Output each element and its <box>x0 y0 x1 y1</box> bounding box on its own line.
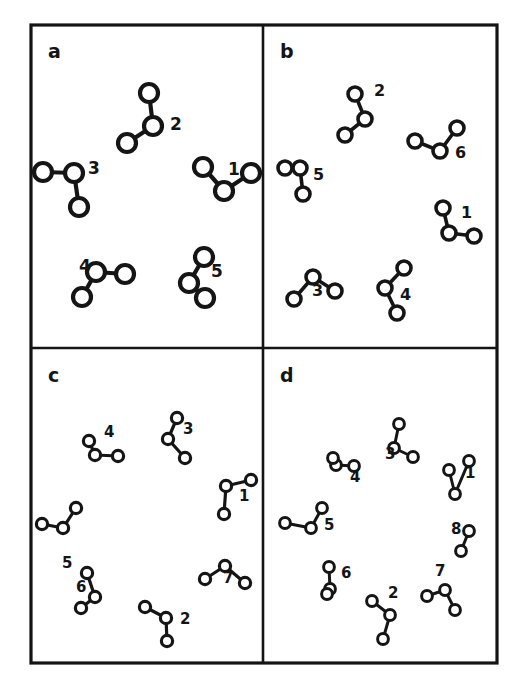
cluster-hub-node <box>180 274 198 292</box>
cluster-label: 3 <box>312 281 323 300</box>
cluster-hub-node <box>440 585 451 596</box>
cluster-leaf-node <box>296 187 310 201</box>
cluster-hub-node <box>215 182 233 200</box>
cluster-leaf-node <box>317 503 328 514</box>
cluster-hub-node <box>433 144 447 158</box>
cluster-leaf-node <box>70 502 81 513</box>
cluster-leaf-node <box>378 634 389 645</box>
cluster-label: 7 <box>223 569 233 587</box>
cluster-hub-node <box>378 281 392 295</box>
cluster: 1 <box>218 474 256 519</box>
cluster: 4 <box>378 261 411 320</box>
cluster: 3 <box>287 270 342 306</box>
cluster: 6 <box>75 567 100 613</box>
cluster-leaf-node <box>161 635 172 646</box>
cluster-hub-node <box>293 161 307 175</box>
cluster-leaf-node <box>450 121 464 135</box>
cluster-leaf-node <box>239 577 250 588</box>
panel-letter-a: a <box>48 40 61 62</box>
cluster-label: 2 <box>388 584 398 602</box>
cluster-leaf-node <box>171 412 182 423</box>
cluster-leaf-node <box>322 589 333 600</box>
cluster-leaf-node <box>280 518 291 529</box>
cluster-leaf-node <box>73 288 91 306</box>
cluster-hub-node <box>89 449 100 460</box>
cluster: 5 <box>36 502 81 572</box>
cluster-label: 1 <box>228 159 240 179</box>
cluster-leaf-node <box>36 518 47 529</box>
cluster: 3 <box>34 158 100 216</box>
cluster-label: 4 <box>400 285 411 304</box>
cluster-label: 2 <box>374 81 385 100</box>
cluster-label: 4 <box>350 468 360 486</box>
cluster-leaf-node <box>328 284 342 298</box>
cluster-leaf-node <box>287 292 301 306</box>
cluster: 2 <box>118 84 182 152</box>
cluster-hub-node <box>385 610 396 621</box>
cluster-leaf-node <box>179 452 190 463</box>
cluster: 2 <box>139 601 190 646</box>
cluster-leaf-node <box>328 453 339 464</box>
cluster: 5 <box>280 503 335 534</box>
cluster-label: 1 <box>465 464 475 482</box>
cluster-leaf-node <box>34 163 52 181</box>
cluster-label: 5 <box>324 516 334 534</box>
cluster: 6 <box>408 121 466 162</box>
cluster: 2 <box>338 81 385 142</box>
cluster: 3 <box>162 412 193 463</box>
cluster: 4 <box>83 423 123 462</box>
cluster-leaf-node <box>408 452 419 463</box>
cluster-leaf-node <box>450 605 461 616</box>
cluster: 5 <box>278 161 324 201</box>
cluster: 3 <box>385 419 418 463</box>
cluster-label: 3 <box>183 420 193 438</box>
panel-c: c1234567 <box>36 364 256 647</box>
cluster-hub-node <box>456 546 467 557</box>
cluster-leaf-node <box>218 508 229 519</box>
cluster-leaf-node <box>324 562 335 573</box>
scientific-figure-canvas: a12345b123456c1234567d12345678 <box>0 0 525 696</box>
cluster-leaf-node <box>408 134 422 148</box>
cluster-leaf-node <box>444 465 455 476</box>
cluster: 1 <box>194 158 260 200</box>
cluster-leaf-node <box>467 229 481 243</box>
cluster: 4 <box>328 453 361 486</box>
cluster-label: 4 <box>79 256 91 276</box>
cluster-leaf-node <box>390 306 404 320</box>
cluster-leaf-node <box>245 474 256 485</box>
cluster: 6 <box>322 562 352 600</box>
cluster-label: 5 <box>313 165 324 184</box>
cluster: 8 <box>451 520 474 556</box>
cluster-label: 5 <box>211 261 223 281</box>
panel-d: d12345678 <box>280 364 476 644</box>
cluster-leaf-node <box>140 84 158 102</box>
cluster-label: 3 <box>385 445 395 463</box>
cluster-label: 6 <box>455 143 466 162</box>
cluster-hub-node <box>162 433 173 444</box>
cluster-label: 7 <box>435 562 445 580</box>
cluster-leaf-node <box>75 602 86 613</box>
cluster: 1 <box>444 456 476 500</box>
cluster-leaf-node <box>199 573 210 584</box>
cluster-leaf-node <box>394 419 405 430</box>
cluster-leaf-node <box>397 261 411 275</box>
cluster: 2 <box>367 584 399 644</box>
cluster-label: 5 <box>62 554 72 572</box>
cluster-leaf-node <box>118 134 136 152</box>
cluster: 7 <box>422 562 461 615</box>
cluster-leaf-node <box>139 601 150 612</box>
cluster-leaf-node <box>367 596 378 607</box>
cluster-hub-node <box>144 117 162 135</box>
cluster-leaf-node <box>348 87 362 101</box>
cluster: 1 <box>436 201 481 243</box>
cluster-label: 4 <box>104 423 114 441</box>
cluster-leaf-node <box>278 161 292 175</box>
cluster-leaf-node <box>464 526 475 537</box>
cluster-leaf-node <box>196 289 214 307</box>
cluster-hub-node <box>57 522 68 533</box>
cluster: 5 <box>180 248 223 307</box>
cluster-label: 6 <box>76 578 86 596</box>
cluster-hub-node <box>89 591 100 602</box>
panel-b: b123456 <box>278 40 481 320</box>
cluster: 4 <box>73 256 134 306</box>
